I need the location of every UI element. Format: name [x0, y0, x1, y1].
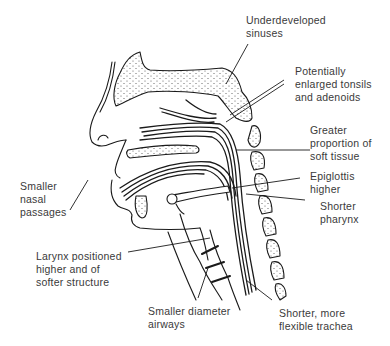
sinus-bone	[114, 52, 252, 121]
label-line: pharynx	[320, 213, 359, 226]
label-line: Smaller	[20, 180, 67, 193]
label-line: Epiglottis	[310, 170, 355, 183]
label-line: Larynx positioned	[36, 250, 122, 263]
label-line: airways	[148, 318, 231, 331]
label-larynx: Larynx positioned higher and of softer s…	[36, 250, 122, 289]
label-epiglottis: Epiglottis higher	[310, 170, 355, 196]
label-smaller-airways: Smaller diameter airways	[148, 305, 231, 331]
label-line: higher and of	[36, 263, 122, 276]
label-line: Smaller diameter	[148, 305, 231, 318]
label-line: nasal	[20, 193, 67, 206]
label-line: passages	[20, 206, 67, 219]
label-shorter-pharynx: Shorter pharynx	[320, 200, 359, 226]
label-soft-tissue: Greater proportion of soft tissue	[310, 124, 372, 163]
label-line: Underdeveloped	[246, 14, 326, 27]
label-nasal-passages: Smaller nasal passages	[20, 180, 67, 219]
label-enlarged-tonsils: Potentially enlarged tonsils and adenoid…	[295, 65, 372, 104]
label-line: higher	[310, 183, 355, 196]
label-line: soft tissue	[310, 150, 372, 163]
label-line: sinuses	[246, 27, 326, 40]
label-line: Shorter, more	[279, 307, 353, 320]
label-underdeveloped-sinuses: Underdeveloped sinuses	[246, 14, 326, 40]
label-line: Greater	[310, 124, 372, 137]
label-line: softer structure	[36, 276, 122, 289]
label-line: and adenoids	[295, 91, 372, 104]
label-line: proportion of	[310, 137, 372, 150]
label-line: enlarged tonsils	[295, 78, 372, 91]
label-line: Shorter	[320, 200, 359, 213]
label-line: flexible trachea	[279, 320, 353, 333]
label-flexible-trachea: Shorter, more flexible trachea	[279, 307, 353, 333]
label-line: Potentially	[295, 65, 372, 78]
